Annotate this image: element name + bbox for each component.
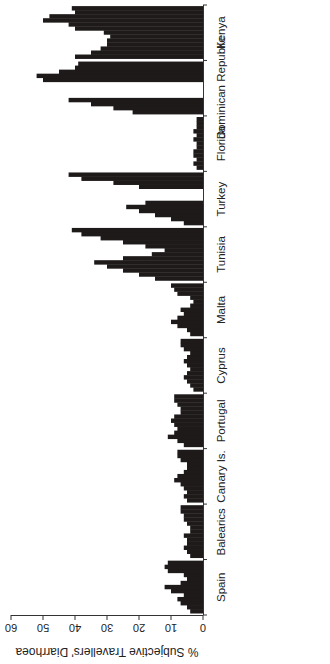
bar — [187, 466, 203, 470]
bar — [177, 474, 203, 478]
bar — [75, 26, 203, 30]
bar — [187, 363, 203, 367]
bar — [197, 165, 203, 169]
bar — [78, 62, 203, 66]
bar — [181, 581, 203, 585]
bar — [181, 308, 203, 312]
category-label: Turkey — [215, 181, 227, 216]
bar — [187, 550, 203, 554]
bar — [75, 10, 203, 14]
bar — [187, 379, 203, 383]
bar — [181, 343, 203, 347]
bar — [181, 601, 203, 605]
bar — [197, 133, 203, 137]
bar — [184, 312, 203, 316]
bar — [187, 462, 203, 466]
bars-group — [37, 6, 203, 613]
bar — [177, 324, 203, 328]
bar — [181, 509, 203, 513]
bar — [139, 272, 203, 276]
bar — [72, 228, 203, 232]
bar — [168, 435, 203, 439]
bar — [181, 505, 203, 509]
rotated-chart-frame: 0102030405060 % Subjective Travellers' D… — [0, 0, 330, 664]
bar — [75, 66, 203, 70]
bar — [174, 414, 203, 418]
bar — [197, 117, 203, 121]
bar — [113, 181, 203, 185]
bar — [171, 217, 203, 221]
bar — [177, 316, 203, 320]
bar — [165, 248, 203, 252]
bar — [184, 443, 203, 447]
bar — [177, 450, 203, 454]
bar — [110, 34, 203, 38]
bar — [155, 213, 203, 217]
bar — [94, 260, 203, 264]
bar — [81, 177, 203, 181]
bar — [187, 521, 203, 525]
bar — [190, 304, 203, 308]
bar — [177, 454, 203, 458]
bar — [184, 347, 203, 351]
bar — [139, 209, 203, 213]
bar — [171, 419, 203, 423]
bar — [177, 597, 203, 601]
bar — [104, 30, 203, 34]
y-tick-label: 60 — [5, 622, 17, 634]
bar — [101, 46, 203, 50]
category-label: Kenya — [215, 16, 227, 49]
bar — [187, 542, 203, 546]
category-label: Cyprus — [215, 347, 227, 384]
bar — [181, 406, 203, 410]
bar — [193, 149, 203, 153]
category-label: Balearics — [215, 508, 227, 556]
bar — [43, 78, 203, 82]
bar — [181, 339, 203, 343]
bar — [190, 525, 203, 529]
bar — [181, 410, 203, 414]
bar — [133, 110, 203, 114]
bar — [187, 605, 203, 609]
category-label: Tunisia — [215, 236, 227, 273]
bar — [190, 529, 203, 533]
bar — [190, 554, 203, 558]
bar — [184, 470, 203, 474]
bar — [190, 383, 203, 387]
bar — [177, 291, 203, 295]
bar — [139, 185, 203, 189]
bar — [72, 6, 203, 10]
bar — [123, 256, 203, 260]
bar — [177, 402, 203, 406]
bar — [177, 439, 203, 443]
bar — [197, 157, 203, 161]
bar — [126, 205, 203, 209]
bar — [190, 351, 203, 355]
bar — [190, 367, 203, 371]
y-tick-label: 10 — [165, 622, 177, 634]
bar — [184, 546, 203, 550]
bar — [190, 609, 203, 613]
bar — [197, 141, 203, 145]
bar — [177, 427, 203, 431]
bar — [197, 125, 203, 129]
bar — [193, 161, 203, 165]
bar — [49, 14, 203, 18]
bar — [174, 431, 203, 435]
bar-chart: 0102030405060 % Subjective Travellers' D… — [0, 0, 330, 664]
bar — [168, 569, 203, 573]
category-label: Portugal — [215, 399, 227, 442]
bar — [107, 38, 203, 42]
bar — [69, 172, 203, 176]
bar — [174, 423, 203, 427]
bar — [184, 486, 203, 490]
bar — [184, 513, 203, 517]
bar — [43, 18, 203, 22]
category-label: Dominican Republic — [215, 37, 227, 140]
y-tick-label: 40 — [69, 622, 81, 634]
bar — [168, 561, 203, 565]
bar — [145, 201, 203, 205]
bar — [59, 70, 203, 74]
y-axis-title: % Subjective Travellers' Diarrhoea — [15, 645, 198, 659]
bar — [91, 102, 203, 106]
